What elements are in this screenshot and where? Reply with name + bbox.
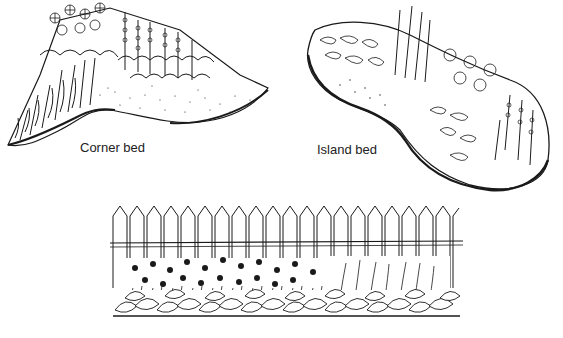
- fence-border-illustration: [105, 198, 470, 318]
- fence-border-drawing: [105, 198, 470, 318]
- corner-bed-label: Corner bed: [80, 140, 145, 155]
- island-bed-drawing: [280, 0, 563, 200]
- island-bed-label: Island bed: [317, 142, 377, 157]
- island-bed-illustration: Island bed: [280, 0, 563, 200]
- corner-bed-illustration: Corner bed: [0, 0, 290, 170]
